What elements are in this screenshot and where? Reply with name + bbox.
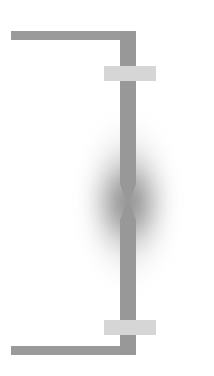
upper-crosshead-arm	[11, 31, 136, 40]
lower-clamp-jaw	[104, 320, 156, 335]
lower-neck-taper	[120, 201, 136, 220]
upper-specimen-shaft	[120, 31, 136, 184]
upper-neck-taper	[120, 184, 136, 203]
upper-clamp-jaw	[104, 66, 156, 81]
diagram-canvas	[0, 0, 214, 376]
lower-crosshead-arm	[11, 346, 136, 355]
